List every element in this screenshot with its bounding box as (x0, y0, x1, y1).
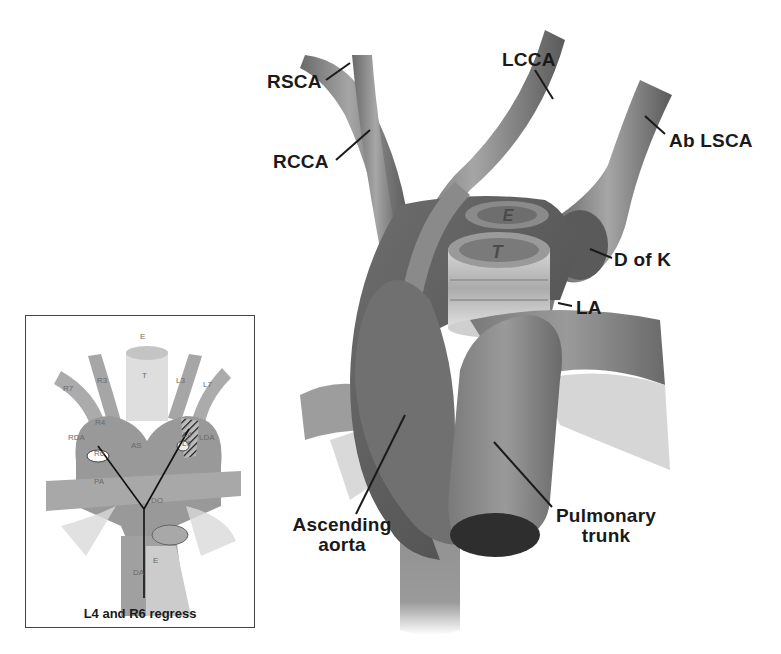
left-bronchus (540, 374, 670, 470)
pulmonary-trunk-vessel (448, 315, 562, 540)
inset-label-t: T (142, 371, 147, 380)
label-ascending-aorta-line1: Ascending (286, 515, 398, 535)
pulmonary-trunk-opening (450, 513, 540, 557)
inset-label-r6: R6 (94, 449, 104, 458)
inset-label-l7: L7 (203, 380, 212, 389)
inset-label-l6: L6 (182, 439, 191, 448)
inset-label-rda: RDA (68, 433, 85, 442)
label-rcca: RCCA (273, 152, 329, 172)
inset-label-r4: R4 (95, 418, 105, 427)
label-pulmonary-trunk: Pulmonary trunk (551, 506, 661, 546)
esophagus-letter: E (503, 207, 515, 224)
inset-label-r3: R3 (97, 376, 107, 385)
label-d-of-k: D of K (614, 250, 671, 270)
inset-esophagus-top (126, 346, 168, 360)
label-ascending-aorta: Ascending aorta (286, 515, 398, 555)
inset-label-l4: L4 (183, 430, 192, 439)
inset-caption: L4 and R6 regress (26, 606, 254, 621)
inset-embryology-box: E T R7 R3 L3 L7 R4 L4 RDA LDA AS R6 L6 P… (25, 315, 255, 628)
label-ab-lsca: Ab LSCA (669, 131, 753, 151)
inset-illustration (26, 316, 256, 629)
label-rsca: RSCA (267, 72, 322, 92)
inset-label-e-top: E (140, 332, 145, 341)
label-ascending-aorta-line2: aorta (286, 535, 398, 555)
inset-label-pa: PA (94, 477, 104, 486)
label-pulmonary-trunk-line2: trunk (551, 526, 661, 546)
inset-label-lda: LDA (199, 433, 215, 442)
inset-label-do: DO (151, 496, 163, 505)
label-la: LA (576, 298, 602, 318)
inset-label-e-bottom: E (153, 556, 158, 565)
inset-label-da: DA (133, 568, 144, 577)
inset-label-l3: L3 (176, 376, 185, 385)
inset-trachea (126, 351, 168, 421)
inset-label-as: AS (131, 441, 142, 450)
label-pulmonary-trunk-line1: Pulmonary (551, 506, 661, 526)
inset-label-r7: R7 (63, 384, 73, 393)
diagram-canvas: E T RSCA RCCA LCCA Ab LSC (0, 0, 781, 654)
label-lcca: LCCA (502, 50, 556, 70)
inset-ductus-opening (152, 525, 188, 545)
